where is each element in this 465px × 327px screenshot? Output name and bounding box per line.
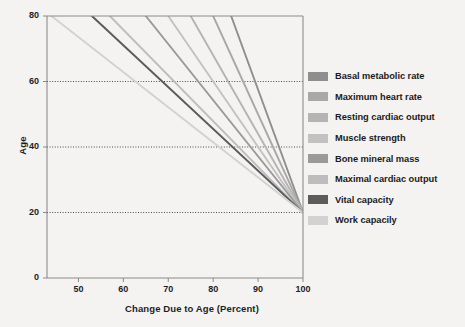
legend-item[interactable]: Maximal cardiac output — [308, 169, 463, 190]
legend-item[interactable]: Muscle strength — [308, 128, 463, 149]
y-tick-label: 20 — [13, 207, 39, 217]
legend-item[interactable]: Maximum heart rate — [308, 87, 463, 108]
x-tick-label: 50 — [66, 284, 90, 294]
legend-item-label: Muscle strength — [335, 133, 406, 143]
legend-swatch-icon — [308, 134, 328, 143]
chart-legend: Basal metabolic rateMaximum heart rateRe… — [308, 66, 463, 231]
legend-item-label: Maximum heart rate — [335, 92, 422, 102]
y-tick-label: 0 — [13, 272, 39, 282]
legend-item[interactable]: Vital capacity — [308, 190, 463, 211]
legend-item[interactable]: Work capacily — [308, 210, 463, 231]
legend-swatch-icon — [308, 175, 328, 184]
legend-item[interactable]: Basal metabolic rate — [308, 66, 463, 87]
y-tick-label: 60 — [13, 76, 39, 86]
x-axis-title: Change Due to Age (Percent) — [92, 303, 292, 314]
legend-item[interactable]: Bone mineral mass — [308, 148, 463, 169]
legend-item[interactable]: Resting cardiac output — [308, 107, 463, 128]
legend-item-label: Basal metabolic rate — [335, 71, 424, 81]
x-tick-label: 80 — [201, 284, 225, 294]
legend-swatch-icon — [308, 195, 328, 204]
y-tick-label: 40 — [13, 141, 39, 151]
y-tick-label: 80 — [13, 10, 39, 20]
legend-swatch-icon — [308, 216, 328, 225]
legend-swatch-icon — [308, 72, 328, 81]
legend-swatch-icon — [308, 113, 328, 122]
legend-swatch-icon — [308, 92, 328, 101]
chart-figure: Change Due to Age (Percent) Age 50607080… — [0, 0, 465, 327]
legend-item-label: Maximal cardiac output — [335, 174, 437, 184]
legend-item-label: Bone mineral mass — [335, 154, 419, 164]
x-tick-label: 60 — [111, 284, 135, 294]
x-tick-label: 90 — [246, 284, 270, 294]
legend-item-label: Resting cardiac output — [335, 112, 435, 122]
legend-item-label: Vital capacity — [335, 195, 394, 205]
legend-item-label: Work capacily — [335, 215, 397, 225]
legend-swatch-icon — [308, 154, 328, 163]
x-tick-label: 100 — [291, 284, 315, 294]
x-tick-label: 70 — [156, 284, 180, 294]
